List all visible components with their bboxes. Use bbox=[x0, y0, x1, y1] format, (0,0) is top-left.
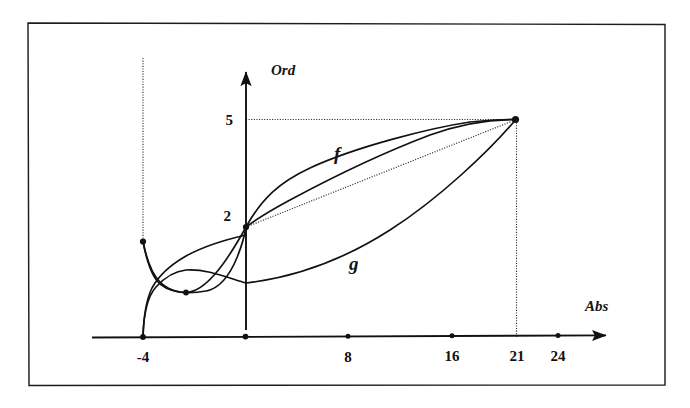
point-f-at-minus4 bbox=[140, 238, 146, 244]
graph-figure: Abs Ord f g -4 8 16 21 24 5 2 bbox=[0, 0, 690, 408]
tick-label-24: 24 bbox=[551, 348, 567, 364]
point-f-at-zero bbox=[243, 224, 249, 230]
tick-label-2: 2 bbox=[224, 208, 232, 224]
series-g-curve bbox=[143, 120, 516, 337]
point-8-axis bbox=[346, 334, 351, 339]
tick-label-8: 8 bbox=[344, 349, 352, 365]
series-g-curve-lower bbox=[143, 252, 246, 337]
point-origin bbox=[243, 334, 249, 340]
tick-label-16: 16 bbox=[445, 348, 461, 364]
series-g-left bbox=[143, 235, 246, 337]
point-24-axis bbox=[556, 333, 561, 338]
point-g-knee bbox=[183, 290, 189, 296]
figure-container: Abs Ord f g -4 8 16 21 24 5 2 bbox=[0, 0, 690, 408]
x-axis-label: Abs bbox=[584, 298, 609, 314]
point-common-endpoint bbox=[512, 116, 519, 123]
tick-label-5: 5 bbox=[226, 112, 234, 128]
figure-border bbox=[28, 23, 665, 386]
curve-label-g: g bbox=[348, 253, 359, 274]
point-16-axis bbox=[450, 333, 455, 338]
y-axis-label: Ord bbox=[271, 62, 296, 78]
tick-label-minus4: -4 bbox=[137, 349, 150, 365]
tick-label-21: 21 bbox=[510, 348, 525, 364]
curve-label-f: f bbox=[334, 143, 342, 164]
point-minus4-axis bbox=[140, 334, 146, 340]
series-chord-dotted bbox=[246, 120, 515, 227]
series-f-curve bbox=[143, 120, 516, 293]
